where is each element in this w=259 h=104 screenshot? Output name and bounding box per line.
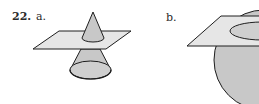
figure-a-cone-plane (33, 12, 131, 79)
figure-canvas (0, 0, 259, 104)
cone-upper-tip (82, 12, 104, 42)
plane-a (33, 31, 131, 49)
figure-b-sphere-plane (187, 10, 259, 104)
